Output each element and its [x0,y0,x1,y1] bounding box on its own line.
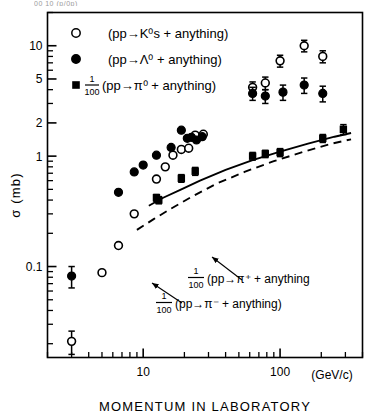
data-point-filled-square [155,196,162,203]
y-tick-label: 0.1 [26,260,43,274]
annotation-pi-plus: 1 100 (pp→π⁺ + anything [188,257,310,290]
annotation-pi-plus-denominator: 100 [188,280,203,290]
legend-item-pi-zero: 1 100 (pp→π⁰ + anything) [72,74,216,97]
legend-item-kshort: (pp→K⁰s + anything) [72,26,228,41]
data-point-open-circle [130,210,138,218]
data-point-filled-square [319,135,326,142]
data-point-open-circle [115,242,123,250]
data-point-filled-circle [300,81,308,89]
y-tick-label: 5 [36,72,43,86]
legend-prefactor-numerator: 1 [89,74,94,84]
legend-prefactor-denominator: 100 [84,87,99,97]
legend: (pp→K⁰s + anything) (pp→Λ⁰ + anything) 1… [72,26,228,97]
x-tick-label: 100 [270,365,290,379]
data-point-filled-circle [198,133,206,141]
y-axis-tick-labels: 0.112510 [26,39,43,274]
legend-label-lambda: (pp→Λ⁰ + anything) [108,52,222,67]
data-point-filled-circle [279,88,287,96]
data-point-open-circle [261,79,269,87]
data-point-open-circle [153,175,161,183]
data-point-open-circle [319,53,327,61]
data-point-filled-circle [177,126,185,134]
data-point-filled-circle [139,161,147,169]
data-point-filled-circle [130,168,138,176]
data-point-filled-circle [167,143,175,151]
y-axis-ticks [48,13,57,344]
legend-label-kshort: (pp→K⁰s + anything) [108,26,228,41]
y-tick-label: 2 [36,116,43,130]
data-point-filled-square [178,175,185,182]
annotation-pi-minus: 1 100 (pp→π⁻ + anything) [152,283,282,315]
data-point-open-circle [98,269,106,277]
x-axis-title: MOMENTUM IN LABORATORY [99,399,311,414]
data-point-filled-square [340,126,347,133]
x-axis-units: (GeV/c) [311,368,352,382]
data-point-filled-square [262,150,269,157]
open-circle-icon [72,29,80,37]
annotation-pi-minus-numerator: 1 [161,291,166,301]
y-axis-title: σ (mb) [8,172,23,218]
data-point-open-circle [276,57,284,65]
x-axis-ticks [48,349,363,358]
data-point-filled-circle [68,272,76,280]
data-point-open-circle [185,144,193,152]
x-axis-tick-labels: 10100 [137,365,291,379]
annotation-pi-plus-label: (pp→π⁺ + anything [207,272,310,286]
annotation-pi-plus-numerator: 1 [193,266,198,276]
data-point-filled-square [276,149,283,156]
data-point-filled-circle [152,151,160,159]
annotation-pi-minus-denominator: 100 [156,305,171,315]
data-point-open-circle [68,337,76,345]
annotation-pi-minus-label: (pp→π⁻ + anything) [175,297,282,311]
series-filled-square [153,125,347,204]
data-point-filled-square [192,168,199,175]
legend-label-pi-zero: (pp→π⁰ + anything) [102,78,216,93]
data-point-filled-circle [319,89,327,97]
data-point-filled-circle [249,89,257,97]
legend-item-lambda: (pp→Λ⁰ + anything) [72,52,222,67]
data-point-open-circle [177,146,185,154]
y-tick-label: 1 [36,150,43,164]
filled-circle-icon [72,55,80,63]
cropped-header-text: 00 10 (p/0p) [34,0,78,6]
x-tick-label: 10 [137,365,151,379]
data-point-filled-circle [261,92,269,100]
filled-square-icon [72,81,80,89]
y-tick-label: 10 [29,39,43,53]
data-point-open-circle [169,151,177,159]
data-point-open-circle [161,163,169,171]
scatter-plot-svg: 0.112510 10100 σ (mb) MOMENTUM IN LABORA… [0,0,374,418]
data-point-filled-circle [114,188,122,196]
data-point-open-circle [300,42,308,50]
figure-root: 00 10 (p/0p) 0.112510 10100 σ (mb) MOMEN… [0,0,374,418]
data-point-filled-square [249,152,256,159]
